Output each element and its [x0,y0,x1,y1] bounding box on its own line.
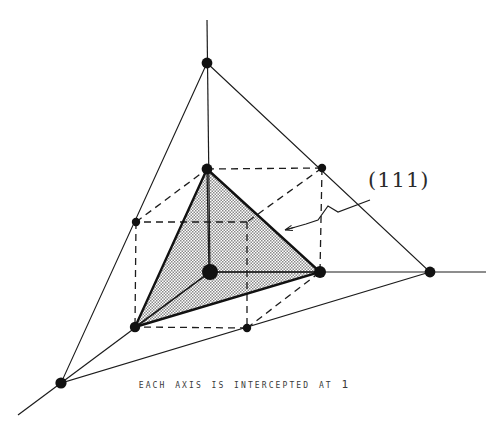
plane-label-111: (111) [368,168,429,192]
cube-edge-bottommid-bottomleft [135,327,247,328]
cube-edge-topbackright-rightfront [320,168,322,272]
dot-cube-top-back-right [318,164,326,172]
miller-index-diagram [0,0,489,433]
dot-axis-intercept-vertical [202,58,213,69]
dot-cube-left-back [132,218,140,226]
plane-label-leader-line [285,200,370,230]
dot-cube-bottom-left-front [130,322,140,332]
cube-edge-topfront-topbackright [207,168,322,169]
figure-caption: Each axis is intercepted at 1 [0,378,489,391]
figure-page: (111) Each axis is intercepted at 1 [0,0,489,433]
dot-origin [202,264,218,280]
cube-edge-topbackright-hiddenback [247,168,322,222]
dot-axis-intercept-right [425,267,436,278]
cube-edge-leftback-bottomleft [135,222,136,327]
dot-cube-top-front [202,164,213,175]
dot-cube-right-front [314,266,326,278]
dot-cube-bottom-mid-front [243,324,251,332]
